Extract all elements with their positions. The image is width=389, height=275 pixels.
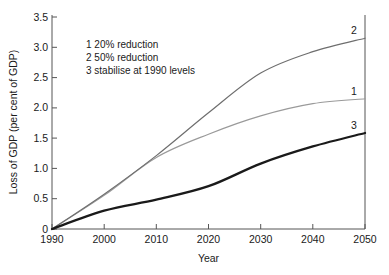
x-tick-label: 2000 [93, 233, 117, 245]
x-tick-label: 2040 [301, 233, 325, 245]
series-end-tag-3: 3 [351, 119, 357, 131]
legend-entry-2: 2 50% reduction [86, 52, 158, 63]
legend-entry-3: 3 stabilise at 1990 levels [86, 65, 195, 76]
x-tick-label: 2030 [249, 233, 273, 245]
x-tick-label: 2050 [353, 233, 377, 245]
x-tick-label: 2010 [145, 233, 169, 245]
chart-figure: 0 0.5 1.0 1.5 2.0 2.5 3.0 3.5 1990 2000 … [0, 0, 389, 275]
y-tick-label: 3.0 [33, 41, 48, 53]
series-end-tag-2: 2 [351, 24, 357, 36]
y-tick-label: 2.5 [33, 71, 48, 83]
series-end-tag-1: 1 [351, 85, 357, 97]
y-tick-label: 0.5 [33, 192, 48, 204]
x-tick-label: 2020 [197, 233, 221, 245]
y-tick-label: 1.5 [33, 132, 48, 144]
y-axis-title: Loss of GDP (per cent of GDP) [7, 50, 19, 195]
y-tick-label: 1.0 [33, 162, 48, 174]
legend-entry-1: 1 20% reduction [86, 39, 158, 50]
y-tick-label: 2.0 [33, 101, 48, 113]
line-chart: 0 0.5 1.0 1.5 2.0 2.5 3.0 3.5 1990 2000 … [0, 0, 389, 275]
y-tick-label: 3.5 [33, 11, 48, 23]
x-axis-title: Year [198, 252, 220, 264]
x-tick-label: 1990 [40, 233, 64, 245]
